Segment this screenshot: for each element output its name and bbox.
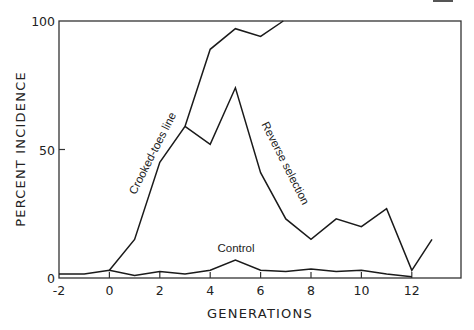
series-label-reverse-selection: Reverse selection [259, 120, 311, 207]
x-tick-label: 0 [105, 283, 113, 298]
series-lines [59, 21, 432, 277]
tick-labels: -2024681012050100 [31, 14, 420, 298]
x-tick-label: 12 [404, 283, 420, 298]
x-tick-label: 10 [353, 283, 369, 298]
series-label-control: Control [217, 242, 254, 254]
line-chart: -2024681012050100 GENERATIONS PERCENT IN… [0, 0, 474, 330]
y-tick-label: 100 [31, 14, 55, 29]
plot-frame [59, 21, 461, 278]
page-number-fragment [433, 0, 453, 2]
y-axis-title: PERCENT INCIDENCE [13, 71, 28, 227]
x-tick-label: 4 [206, 283, 214, 298]
x-axis-title: GENERATIONS [207, 306, 313, 321]
x-tick-label: 6 [257, 283, 265, 298]
axis-ticks [59, 150, 412, 279]
y-tick-label: 0 [47, 271, 55, 286]
y-tick-label: 50 [39, 143, 55, 158]
x-tick-label: 8 [307, 283, 315, 298]
x-tick-label: 2 [156, 283, 164, 298]
series-line-crooked-toes-line [109, 21, 283, 270]
